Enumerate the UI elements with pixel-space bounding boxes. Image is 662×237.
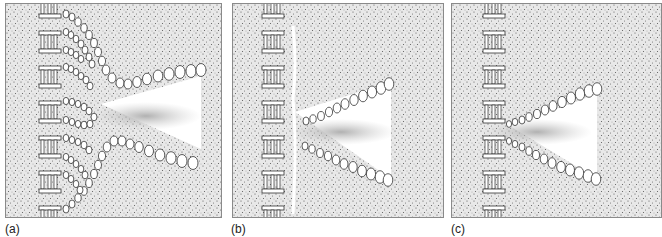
panel-b bbox=[232, 3, 444, 218]
panel-a-label: (a) bbox=[5, 222, 20, 236]
panel-b-label: (b) bbox=[231, 222, 246, 236]
panel-b-drawing bbox=[233, 4, 444, 218]
panel-a bbox=[5, 3, 222, 218]
panel-c bbox=[451, 3, 662, 218]
panel-c-drawing bbox=[452, 4, 662, 218]
panel-c-label: (c) bbox=[451, 222, 465, 236]
panel-a-drawing bbox=[6, 4, 222, 218]
